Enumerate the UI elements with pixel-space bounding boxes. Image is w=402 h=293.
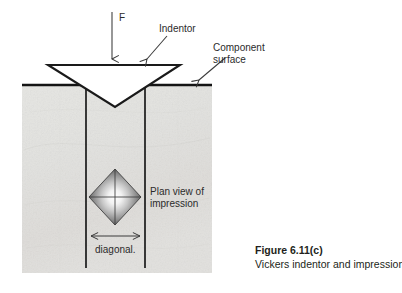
figure-caption: Figure 6.11(c) Vickers indentor and impr… — [255, 244, 400, 271]
indentor-label: Indentor — [159, 23, 196, 35]
figure-caption-title: Figure 6.11(c) — [255, 244, 400, 258]
indentor-leader-arrow — [147, 36, 167, 59]
plan-view-label-line2: impression — [150, 198, 198, 209]
plan-view-label: Plan view ofimpression — [150, 186, 204, 210]
diagonal-label: diagonal. — [95, 244, 136, 256]
component-surface-label-line2: surface — [213, 54, 246, 65]
plan-view-label-line1: Plan view of — [150, 186, 204, 197]
figure-caption-text: Vickers indentor and impression. — [255, 258, 400, 272]
force-label: F — [119, 12, 125, 24]
component-surface-label-line1: Component — [213, 42, 265, 53]
vickers-indentation-figure: F Indentor Componentsurface Plan view of… — [0, 0, 402, 293]
component-surface-label: Componentsurface — [213, 42, 265, 66]
